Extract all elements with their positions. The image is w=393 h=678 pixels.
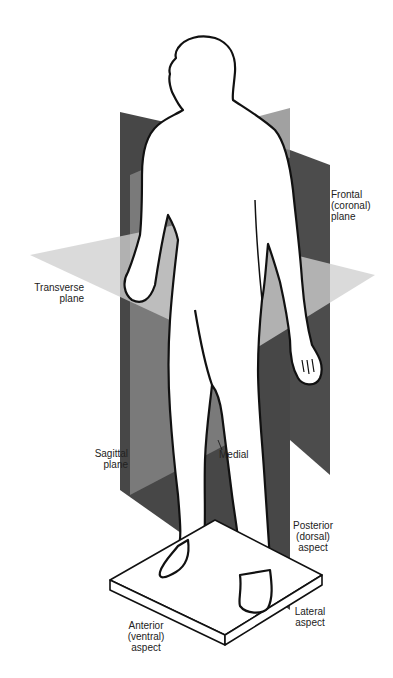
diagram-canvas bbox=[0, 0, 393, 678]
label-medial: Medial bbox=[219, 449, 248, 460]
label-lateral-aspect: Lateral aspect bbox=[285, 606, 335, 628]
label-posterior-aspect: Posterior (dorsal) aspect bbox=[283, 520, 343, 553]
label-frontal-plane: Frontal (coronal) plane bbox=[331, 189, 370, 222]
anatomical-planes-diagram: Frontal (coronal) plane Transverse plane… bbox=[0, 0, 393, 678]
label-anterior-aspect: Anterior (ventral) aspect bbox=[122, 620, 170, 653]
label-sagittal-plane: Sagittal plane bbox=[80, 448, 128, 470]
label-transverse-plane: Transverse plane bbox=[14, 282, 84, 304]
